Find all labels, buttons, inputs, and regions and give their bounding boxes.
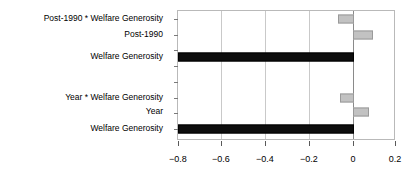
x-axis-label-zero: 0 [350, 154, 355, 164]
x-tick-minus-0point6 [221, 141, 222, 146]
bar-welfare-generosity-top [178, 53, 354, 62]
y-tick-4 [174, 66, 178, 67]
y-tick-2 [174, 35, 178, 36]
x-axis-label-minus-0point2: −0.2 [300, 154, 318, 164]
gridline-minus-0point6 [221, 11, 222, 139]
category-label-welfare-generosity-top: Welfare Generosity [90, 51, 163, 61]
x-axis-label-minus-0point6: −0.6 [212, 154, 230, 164]
horizontal-bar-chart: Post-1990 * Welfare Generosity Post-1990… [0, 0, 408, 170]
y-tick-1 [174, 19, 178, 20]
gridline-minus-0point2 [309, 11, 310, 139]
bar-year [353, 108, 369, 117]
bar-welfare-generosity-bottom [178, 125, 354, 134]
y-tick-5 [174, 82, 178, 83]
y-tick-6 [174, 98, 178, 99]
x-tick-minus-0point4 [265, 141, 266, 146]
plot-area: −0.8 −0.6 −0.4 −0.2 0 0.2 [177, 10, 395, 140]
category-label-year: Year [146, 106, 163, 116]
bar-year-x-welfare-generosity [340, 94, 354, 103]
category-label-post1990-x-welfare-generosity: Post-1990 * Welfare Generosity [44, 13, 163, 23]
category-label-year-x-welfare-generosity: Year * Welfare Generosity [65, 92, 163, 102]
x-axis-label-minus-0point4: −0.4 [256, 154, 274, 164]
y-tick-3 [174, 50, 178, 51]
gridline-minus-0point4 [265, 11, 266, 139]
x-tick-zero [353, 141, 354, 146]
x-tick-minus-0point8 [178, 141, 179, 146]
bar-post1990-x-welfare-generosity [338, 15, 354, 24]
x-axis-label-0point2: 0.2 [389, 154, 402, 164]
x-axis-label-minus-0point8: −0.8 [169, 154, 187, 164]
category-label-welfare-generosity-bottom: Welfare Generosity [90, 123, 163, 133]
x-tick-minus-0point2 [309, 141, 310, 146]
x-tick-0point2 [395, 141, 396, 146]
category-label-post1990: Post-1990 [124, 29, 163, 39]
bar-post1990 [353, 31, 373, 40]
y-tick-7 [174, 113, 178, 114]
